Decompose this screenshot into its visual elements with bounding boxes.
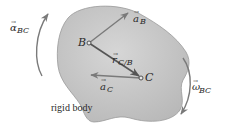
- point-b-marker: [87, 41, 91, 45]
- rigid-body-label: rigid body: [51, 102, 92, 113]
- a-b-label: → a B: [133, 8, 146, 26]
- svg-text:C/B: C/B: [118, 58, 133, 67]
- alpha-bc-label: → α BC: [10, 18, 29, 35]
- svg-text:BC: BC: [16, 26, 29, 35]
- point-c-label: C: [145, 71, 154, 84]
- point-b-label: B: [77, 36, 86, 49]
- svg-text:C: C: [107, 85, 113, 94]
- omega-bc-label: → ω BC: [192, 77, 211, 95]
- svg-text:BC: BC: [198, 86, 211, 95]
- svg-text:B: B: [139, 17, 146, 26]
- alpha-rotation-arrow: [37, 14, 48, 76]
- svg-text:a: a: [133, 13, 139, 24]
- svg-text:α: α: [10, 22, 17, 33]
- svg-text:a: a: [100, 81, 106, 92]
- rigid-body-diagram: B C → α BC → ω BC → a B → r C/B → a C ri…: [0, 0, 227, 129]
- point-c-marker: [139, 76, 143, 80]
